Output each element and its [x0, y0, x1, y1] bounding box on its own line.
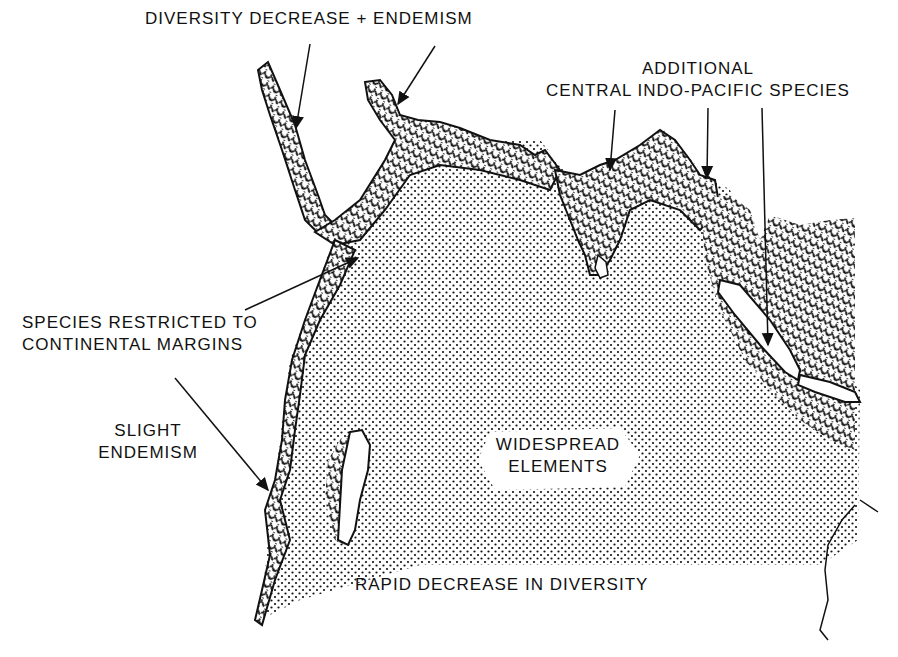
label-species-restricted: SPECIES RESTRICTED TO CONTINENTAL MARGIN… — [22, 312, 258, 356]
arrow-bay-of-bengal — [707, 108, 708, 178]
label-diversity-decrease: DIVERSITY DECREASE + ENDEMISM — [145, 8, 473, 30]
label-widespread-elements: WIDESPREAD ELEMENTS — [488, 434, 628, 478]
label-slight-line1: SLIGHT — [88, 420, 208, 442]
label-additional-species: ADDITIONAL CENTRAL INDO-PACIFIC SPECIES — [528, 58, 868, 102]
label-additional-line1: ADDITIONAL — [528, 58, 868, 80]
label-additional-line2: CENTRAL INDO-PACIFIC SPECIES — [528, 80, 868, 102]
label-slight-endemism: SLIGHT ENDEMISM — [88, 420, 208, 464]
label-slight-line2: ENDEMISM — [88, 442, 208, 464]
arrow-persian-gulf — [398, 46, 435, 104]
red-sea-margin — [258, 62, 335, 235]
label-restricted-line1: SPECIES RESTRICTED TO — [22, 312, 258, 334]
label-widespread-line2: ELEMENTS — [488, 456, 628, 478]
label-rapid-decrease: RAPID DECREASE IN DIVERSITY — [355, 574, 648, 596]
label-widespread-line1: WIDESPREAD — [488, 434, 628, 456]
arrow-red-sea — [296, 44, 310, 128]
label-restricted-line2: CONTINENTAL MARGINS — [22, 334, 258, 356]
